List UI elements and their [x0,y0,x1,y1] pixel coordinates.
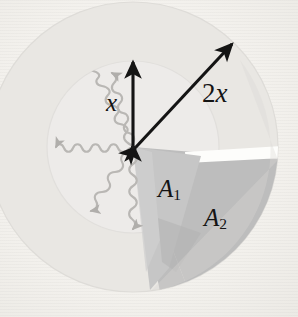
label-radius-2x: 2x [202,80,227,107]
label-radius-x: x [106,90,117,115]
label-radius-2x-prefix: 2 [202,78,216,108]
label-area-a2-subscript: 2 [219,215,227,232]
label-area-a1-subscript: 1 [173,186,181,203]
label-radius-x-text: x [106,89,117,116]
center-vertex-point [131,145,135,149]
label-area-a1-base: A [158,175,173,202]
label-area-a1: A1 [158,176,181,203]
geometry-diagram-svg [0,0,298,317]
label-area-a2-base: A [204,204,219,231]
figure-canvas: x 2x A1 A2 [0,0,298,317]
label-area-a2: A2 [204,205,227,232]
label-radius-2x-var: x [216,78,228,108]
